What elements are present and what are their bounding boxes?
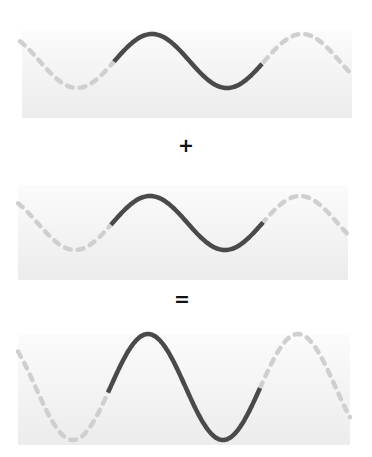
resultant-wave-graphic [0,0,372,457]
resultant-wave-solid-segment [108,334,260,440]
